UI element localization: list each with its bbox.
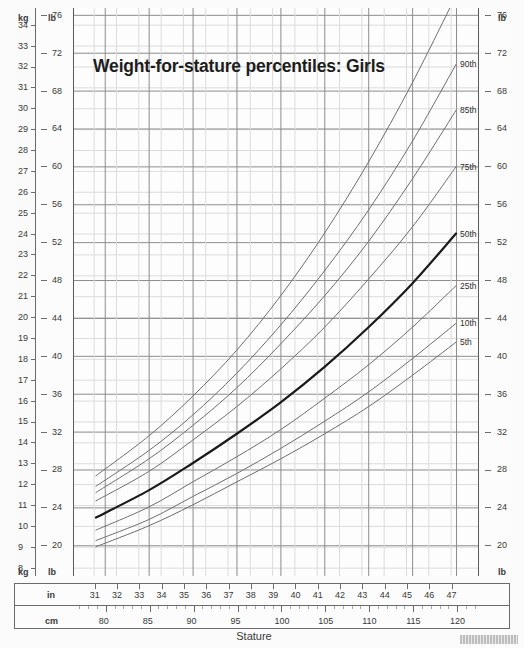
lb-tick-left-32: 32 bbox=[52, 428, 62, 437]
kg-tick-26: 26 bbox=[18, 188, 28, 197]
page-title: Weight-for-stature percentiles: Girls bbox=[74, 56, 404, 77]
lb-tick-left-24: 24 bbox=[52, 503, 62, 512]
lb-tick-left-44: 44 bbox=[52, 314, 62, 323]
cm-tickmark-minor bbox=[352, 606, 353, 609]
lb-tickmark bbox=[485, 507, 491, 508]
lb-tickmark bbox=[41, 280, 47, 281]
lb-tick-left-28: 28 bbox=[52, 465, 62, 474]
kg-tickmark bbox=[31, 150, 36, 151]
lb-tickmark bbox=[41, 318, 47, 319]
kg-tickmark bbox=[31, 129, 36, 130]
percentile-curves bbox=[74, 8, 478, 576]
cm-tickmark-minor bbox=[396, 606, 397, 609]
cm-tickmark-major bbox=[281, 606, 282, 612]
lb-tickmark bbox=[41, 470, 47, 471]
lb-tickmark bbox=[485, 166, 491, 167]
in-tick-label-37: 37 bbox=[224, 591, 234, 600]
kg-tickmark bbox=[31, 87, 36, 88]
watermark bbox=[460, 635, 518, 644]
cm-tickmark-major bbox=[369, 606, 370, 612]
cm-tickmark-minor bbox=[123, 606, 124, 609]
in-tickmark bbox=[340, 584, 341, 589]
cm-tickmark-minor bbox=[387, 606, 388, 609]
in-tickmark bbox=[407, 584, 408, 589]
in-tick-label-31: 31 bbox=[90, 591, 100, 600]
lb-unit-header-top-right: lb bbox=[498, 14, 506, 23]
percentile-label-75th: 75th bbox=[460, 162, 477, 172]
lb-tickmark bbox=[485, 470, 491, 471]
percentile-label-5th: 5th bbox=[460, 337, 472, 347]
kg-tickmark bbox=[31, 526, 36, 527]
kg-tickmark bbox=[31, 171, 36, 172]
lb-tickmark bbox=[41, 432, 47, 433]
cm-tickmark-minor bbox=[220, 606, 221, 609]
lb-tickmark bbox=[41, 204, 47, 205]
in-tick-label-43: 43 bbox=[357, 591, 367, 600]
cm-tickmark-minor bbox=[422, 606, 423, 609]
cm-tick-label-105: 105 bbox=[318, 617, 333, 626]
percentile-label-50th: 50th bbox=[460, 229, 477, 239]
cm-tick-label-80: 80 bbox=[99, 617, 109, 626]
lb-tick-left-20: 20 bbox=[52, 541, 62, 550]
kg-tick-32: 32 bbox=[18, 62, 28, 71]
cm-tickmark-minor bbox=[343, 606, 344, 609]
in-tickmark bbox=[117, 584, 118, 589]
cm-tickmark-minor bbox=[167, 606, 168, 609]
kg-tick-28: 28 bbox=[18, 146, 28, 155]
plot-area bbox=[74, 8, 478, 576]
lb-tickmark bbox=[41, 242, 47, 243]
cm-tick-label-110: 110 bbox=[362, 617, 376, 626]
cm-tickmark-minor bbox=[378, 606, 379, 609]
kg-tickmark bbox=[31, 254, 36, 255]
lb-tickmark bbox=[41, 166, 47, 167]
kg-tickmark bbox=[31, 213, 36, 214]
kg-tick-27: 27 bbox=[18, 167, 28, 176]
in-tick-label-41: 41 bbox=[313, 591, 323, 600]
kg-tick-23: 23 bbox=[18, 250, 28, 259]
in-tickmark bbox=[229, 584, 230, 589]
cm-tickmark-major bbox=[238, 606, 239, 612]
kg-tickmark bbox=[31, 380, 36, 381]
lb-tickmark bbox=[485, 242, 491, 243]
kg-tick-20: 20 bbox=[18, 313, 28, 322]
lb-unit-header-bottom-right: lb bbox=[498, 568, 506, 577]
kg-tickmark bbox=[31, 568, 36, 569]
inches-axis: in 3132333435363738394041424344454647 bbox=[14, 583, 510, 605]
lb-tick-right-36: 36 bbox=[497, 390, 507, 399]
lb-tickmark bbox=[41, 129, 47, 130]
in-tickmark bbox=[162, 584, 163, 589]
in-tickmark bbox=[206, 584, 207, 589]
lb-tick-left-60: 60 bbox=[52, 162, 62, 171]
cm-tickmark-minor bbox=[79, 606, 80, 609]
kg-tickmark bbox=[31, 484, 36, 485]
in-tickmark bbox=[362, 584, 363, 589]
kg-tickmark bbox=[31, 359, 36, 360]
cm-tick-label-85: 85 bbox=[143, 617, 153, 626]
cm-tickmark-minor bbox=[273, 606, 274, 609]
lb-tick-right-20: 20 bbox=[497, 541, 507, 550]
cm-tickmark-minor bbox=[158, 606, 159, 609]
kg-tick-21: 21 bbox=[18, 292, 28, 301]
cm-tick-label-100: 100 bbox=[274, 617, 289, 626]
lb-tickmark bbox=[41, 507, 47, 508]
kg-tickmark bbox=[31, 338, 36, 339]
cm-tickmark-minor bbox=[290, 606, 291, 609]
cm-tickmark-minor bbox=[448, 606, 449, 609]
cm-tickmark-major bbox=[325, 606, 326, 612]
cm-tick-label-95: 95 bbox=[230, 617, 240, 626]
cm-tickmark-minor bbox=[360, 606, 361, 609]
in-tick-label-40: 40 bbox=[290, 591, 300, 600]
lb-tick-right-24: 24 bbox=[497, 503, 507, 512]
cm-tickmark-minor bbox=[440, 606, 441, 609]
in-tick-label-33: 33 bbox=[134, 591, 144, 600]
cm-tickmark-minor bbox=[246, 606, 247, 609]
lb-tick-right-56: 56 bbox=[497, 200, 507, 209]
in-unit-header: in bbox=[47, 591, 55, 600]
kg-tick-13: 13 bbox=[18, 459, 28, 468]
kg-tickmark bbox=[31, 25, 36, 26]
lb-tick-right-28: 28 bbox=[497, 465, 507, 474]
kg-tickmark bbox=[31, 401, 36, 402]
in-tickmark bbox=[429, 584, 430, 589]
in-tick-label-46: 46 bbox=[424, 591, 434, 600]
in-tickmark bbox=[273, 584, 274, 589]
